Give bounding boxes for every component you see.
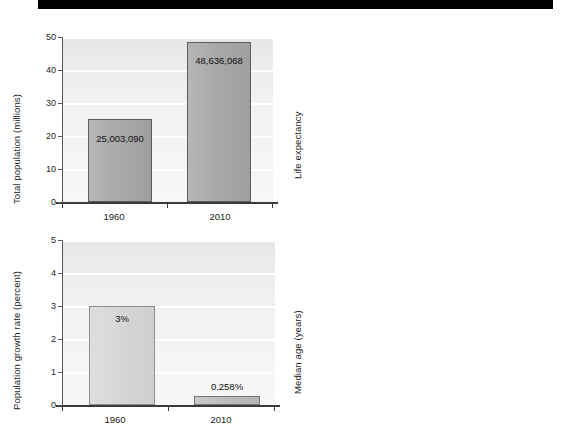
- y-tick-20: 20: [36, 131, 56, 141]
- x-label-1960: 1960: [104, 414, 125, 425]
- chart-total-population: Total population (millions) 25,003,090 4…: [0, 19, 282, 221]
- gridline: [63, 37, 273, 39]
- gridline: [63, 273, 275, 275]
- y-tickmark: [58, 70, 62, 71]
- x-tickmark: [62, 406, 63, 411]
- bar-value-1960: 3%: [115, 313, 129, 324]
- plot-area: 25,003,090 48,636,068: [62, 37, 273, 202]
- x-tickmark: [168, 406, 169, 411]
- bar-value-2010: 48,636,068: [195, 55, 243, 66]
- y-tickmark: [58, 169, 62, 170]
- top-black-band: [38, 0, 553, 9]
- y-tick-10: 10: [36, 164, 56, 174]
- plot-area: 3% 0.258%: [62, 240, 275, 405]
- y-axis-title: Total population (millions): [11, 94, 22, 204]
- chart-median-age: Median age (years) 18.7 37.9 0 10 20 30 …: [282, 224, 563, 429]
- page-root: { "decoration": { "top_band_color": "#00…: [0, 0, 563, 441]
- y-tick-3: 3: [38, 301, 56, 311]
- bar-value-1960: 25,003,090: [96, 133, 144, 144]
- chart-life-expectancy: Life expectancy 51 54 75.56 82.28 Males: [282, 19, 563, 221]
- y-tickmark: [58, 136, 62, 137]
- x-tickmark: [167, 203, 168, 208]
- x-tickmark: [274, 406, 275, 411]
- y-tick-1: 1: [38, 367, 56, 377]
- bar-value-2010: 0.258%: [211, 381, 243, 392]
- bar-2010[interactable]: [194, 396, 260, 405]
- y-tickmark: [58, 306, 62, 307]
- y-tickmark: [58, 103, 62, 104]
- y-tick-4: 4: [38, 268, 56, 278]
- y-tick-0: 0: [36, 197, 56, 207]
- x-label-2010: 2010: [210, 414, 231, 425]
- chart-grid: Total population (millions) 25,003,090 4…: [0, 9, 563, 441]
- y-tick-0: 0: [38, 400, 56, 410]
- gridline: [63, 240, 275, 242]
- y-tickmark: [58, 339, 62, 340]
- y-tickmark: [58, 37, 62, 38]
- y-tick-30: 30: [36, 98, 56, 108]
- y-tick-50: 50: [36, 32, 56, 42]
- y-tickmark: [58, 273, 62, 274]
- bar-1960[interactable]: [88, 119, 152, 202]
- x-tickmark: [272, 203, 273, 208]
- y-tick-2: 2: [38, 334, 56, 344]
- x-label-2010: 2010: [209, 211, 230, 222]
- x-tickmark: [62, 203, 63, 208]
- y-tickmark: [58, 372, 62, 373]
- y-tick-40: 40: [36, 65, 56, 75]
- chart-population-growth-rate: Population growth rate (percent) 3% 0.25…: [0, 224, 282, 429]
- bar-2010[interactable]: [187, 42, 251, 202]
- y-tick-5: 5: [38, 235, 56, 245]
- y-axis-title: Median age (years): [292, 310, 303, 394]
- y-axis-title: Life expectancy: [292, 111, 303, 179]
- x-label-1960: 1960: [103, 211, 124, 222]
- y-tickmark: [58, 240, 62, 241]
- y-axis-title: Population growth rate (percent): [11, 271, 22, 410]
